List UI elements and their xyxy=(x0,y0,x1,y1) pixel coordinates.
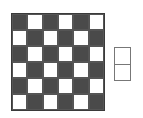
board-cell-r5-c5 xyxy=(89,94,104,110)
board-cell-r5-c4 xyxy=(73,94,88,110)
board-cell-r1-c4 xyxy=(73,30,88,46)
board-cell-r2-c3 xyxy=(58,46,73,62)
board-cell-r3-c4 xyxy=(73,62,88,78)
board-cell-r0-c4 xyxy=(73,14,88,30)
board-cell-r4-c5 xyxy=(89,78,104,94)
board-cell-r4-c3 xyxy=(58,78,73,94)
domino-tile xyxy=(114,47,131,81)
board-cell-r1-c3 xyxy=(58,30,73,46)
board-cell-r0-c5 xyxy=(89,14,104,30)
board-cell-r3-c5 xyxy=(89,62,104,78)
board-cell-r3-c0 xyxy=(12,62,27,78)
board-cell-r5-c0 xyxy=(12,94,27,110)
board-cell-r4-c4 xyxy=(73,78,88,94)
board-cell-r0-c0 xyxy=(12,14,27,30)
board-cell-r2-c1 xyxy=(27,46,42,62)
board-cell-r5-c1 xyxy=(27,94,42,110)
board-cell-r4-c1 xyxy=(27,78,42,94)
board-cell-r5-c2 xyxy=(43,94,58,110)
board-cell-r1-c1 xyxy=(27,30,42,46)
board-cell-r2-c4 xyxy=(73,46,88,62)
board-cell-r3-c2 xyxy=(43,62,58,78)
board-cell-r0-c1 xyxy=(27,14,42,30)
board-cell-r0-c2 xyxy=(43,14,58,30)
board-cell-r1-c5 xyxy=(89,30,104,46)
board-cell-r2-c5 xyxy=(89,46,104,62)
board-cell-r3-c1 xyxy=(27,62,42,78)
board-cell-r5-c3 xyxy=(58,94,73,110)
board-cell-r4-c0 xyxy=(12,78,27,94)
board-cell-r2-c2 xyxy=(43,46,58,62)
domino-top-square xyxy=(115,48,130,64)
domino-bottom-square xyxy=(115,64,130,81)
board-cell-r3-c3 xyxy=(58,62,73,78)
board-cell-r1-c2 xyxy=(43,30,58,46)
board-cell-r4-c2 xyxy=(43,78,58,94)
board-cell-r0-c3 xyxy=(58,14,73,30)
checkerboard-grid xyxy=(11,13,105,111)
board-cell-r2-c0 xyxy=(12,46,27,62)
board-cell-r1-c0 xyxy=(12,30,27,46)
